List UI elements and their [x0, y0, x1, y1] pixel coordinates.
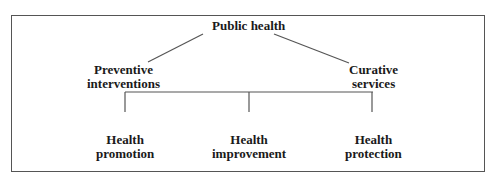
node-label-line1: Preventive [87, 63, 160, 77]
node-health-promotion: Health promotion [96, 133, 154, 161]
node-curative-services: Curative services [349, 63, 398, 91]
node-label: Public health [212, 19, 285, 33]
node-label-line2: interventions [87, 77, 160, 91]
node-label-line2: improvement [212, 147, 286, 161]
node-label-line1: Health [96, 133, 154, 147]
node-preventive-interventions: Preventive interventions [87, 63, 160, 91]
edge-root-curative [274, 34, 349, 63]
node-label-line1: Health [345, 133, 402, 147]
edge-root-preventive [148, 34, 203, 62]
node-label-line1: Curative [349, 63, 398, 77]
node-public-health: Public health [212, 19, 285, 33]
node-label-line1: Health [212, 133, 286, 147]
node-label-line2: services [349, 77, 398, 91]
node-label-line2: promotion [96, 147, 154, 161]
node-label-line2: protection [345, 147, 402, 161]
node-health-improvement: Health improvement [212, 133, 286, 161]
node-health-protection: Health protection [345, 133, 402, 161]
